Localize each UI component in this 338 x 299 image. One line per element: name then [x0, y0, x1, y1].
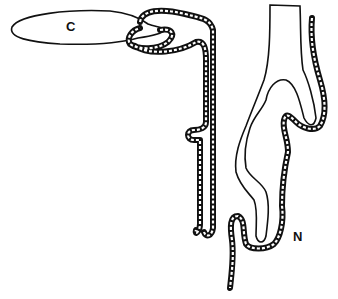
tube-right — [230, 18, 325, 288]
diagram-svg — [0, 0, 338, 299]
label-c: C — [66, 19, 75, 34]
tube-inner-loop — [129, 28, 206, 233]
diagram-canvas: C N — [0, 0, 338, 299]
label-n: N — [293, 229, 302, 244]
nerve-trunk — [236, 5, 316, 242]
